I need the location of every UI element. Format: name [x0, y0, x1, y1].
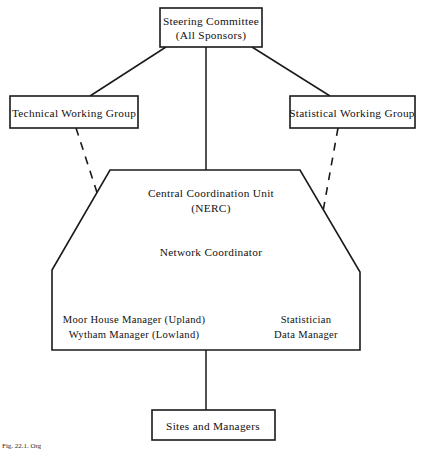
central-unit-label-line2: (NERC) — [191, 202, 230, 215]
network-coordinator-label: Network Coordinator — [160, 246, 263, 258]
connector-steering-to-technical — [90, 47, 166, 96]
statistical-working-group-label: Statistical Working Group — [289, 107, 415, 119]
technical-working-group-label: Technical Working Group — [12, 107, 136, 119]
moor-house-manager-label: Moor House Manager (Upland) — [63, 314, 206, 326]
figure-caption: Fig. 22.1. Org — [2, 442, 41, 449]
statistician-label: Statistician — [281, 314, 332, 325]
connector-steering-to-statistical — [252, 47, 330, 96]
data-manager-label: Data Manager — [274, 329, 338, 340]
wytham-manager-label: Wytham Manager (Lowland) — [69, 329, 200, 341]
central-unit-label-line1: Central Coordination Unit — [148, 187, 275, 199]
diagram-page: Steering Committee (All Sponsors) Techni… — [0, 0, 424, 449]
org-chart-diagram: Steering Committee (All Sponsors) Techni… — [0, 0, 424, 449]
steering-committee-label-line2: (All Sponsors) — [176, 29, 246, 42]
steering-committee-label-line1: Steering Committee — [163, 15, 259, 27]
steering-committee-box[interactable] — [160, 8, 262, 47]
sites-and-managers-label: Sites and Managers — [166, 420, 260, 432]
